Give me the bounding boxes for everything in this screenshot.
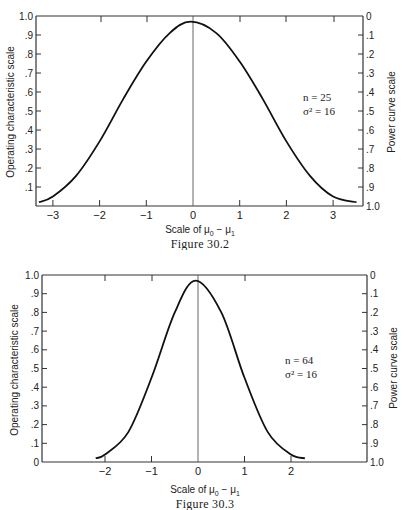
svg-text:−1: −1 <box>140 209 153 221</box>
figure-caption: Figure 30.2 <box>171 237 230 250</box>
svg-text:.6: .6 <box>31 344 40 355</box>
left-axis-label: Operating characteristic scale <box>5 46 16 178</box>
svg-text:.6: .6 <box>366 125 375 136</box>
svg-text:3: 3 <box>330 209 336 221</box>
annotation-sigma: σ² = 16 <box>285 368 317 380</box>
svg-text:.3: .3 <box>31 400 40 411</box>
svg-text:.9: .9 <box>366 182 375 193</box>
svg-text:.4: .4 <box>366 87 375 98</box>
svg-text:.9: .9 <box>31 288 40 299</box>
chart-axes: 1.0.9.8.7.6.5.4.3.2.100.1.2.3.4.5.6.7.8.… <box>25 270 384 478</box>
svg-text:0: 0 <box>190 209 196 221</box>
svg-text:.4: .4 <box>370 344 379 355</box>
svg-text:1: 1 <box>241 465 247 477</box>
svg-text:.2: .2 <box>366 49 375 60</box>
svg-text:.2: .2 <box>370 307 379 318</box>
svg-text:.1: .1 <box>370 288 379 299</box>
x-axis-label: Scale of μ0 − μ1 <box>170 484 240 497</box>
svg-text:−1: −1 <box>145 465 158 477</box>
svg-text:.5: .5 <box>370 363 379 374</box>
svg-text:.8: .8 <box>25 49 34 60</box>
svg-text:1: 1 <box>237 209 243 221</box>
svg-text:.6: .6 <box>370 382 379 393</box>
svg-text:0: 0 <box>366 11 372 22</box>
svg-text:.8: .8 <box>31 307 40 318</box>
svg-text:.3: .3 <box>366 68 375 79</box>
svg-text:1.0: 1.0 <box>25 270 39 281</box>
svg-text:0: 0 <box>195 465 201 477</box>
oc-curve <box>96 281 305 459</box>
svg-text:0: 0 <box>33 457 39 468</box>
svg-text:.1: .1 <box>366 30 375 41</box>
svg-text:.5: .5 <box>366 106 375 117</box>
svg-text:.7: .7 <box>370 400 379 411</box>
annotation-n: n = 25 <box>303 91 332 103</box>
svg-text:.2: .2 <box>25 163 34 174</box>
svg-text:.9: .9 <box>370 438 379 449</box>
svg-text:.3: .3 <box>25 144 34 155</box>
svg-text:2: 2 <box>283 209 289 221</box>
svg-text:.3: .3 <box>370 326 379 337</box>
svg-text:1.0: 1.0 <box>366 201 380 212</box>
svg-text:.4: .4 <box>25 125 34 136</box>
svg-text:2: 2 <box>288 465 294 477</box>
oc-chart-2: 1.0.9.8.7.6.5.4.3.2.100.1.2.3.4.5.6.7.8.… <box>0 258 406 510</box>
annotation-n: n = 64 <box>285 354 314 366</box>
svg-text:.2: .2 <box>31 419 40 430</box>
right-axis-label: Power curve scale <box>388 327 399 409</box>
oc-chart-1: 1.0.9.8.7.6.5.4.3.2.10.1.2.3.4.5.6.7.8.9… <box>0 0 406 250</box>
svg-text:.4: .4 <box>31 382 40 393</box>
svg-text:1.0: 1.0 <box>370 457 384 468</box>
svg-text:.1: .1 <box>31 438 40 449</box>
svg-text:.5: .5 <box>25 106 34 117</box>
svg-text:1.0: 1.0 <box>19 11 33 22</box>
svg-text:.8: .8 <box>366 163 375 174</box>
svg-text:−3: −3 <box>47 209 60 221</box>
svg-text:.6: .6 <box>25 87 34 98</box>
svg-text:.9: .9 <box>25 30 34 41</box>
figure-30-2: 1.0.9.8.7.6.5.4.3.2.10.1.2.3.4.5.6.7.8.9… <box>0 0 406 250</box>
left-axis-label: Operating characteristic scale <box>9 304 20 436</box>
svg-text:.1: .1 <box>25 182 34 193</box>
figure-30-3: 1.0.9.8.7.6.5.4.3.2.100.1.2.3.4.5.6.7.8.… <box>0 258 406 510</box>
x-axis-label: Scale of μ0 − μ1 <box>165 224 235 237</box>
figure-caption: Figure 30.3 <box>176 497 235 510</box>
svg-text:.7: .7 <box>366 144 375 155</box>
right-axis-label: Power curve scale <box>386 71 397 153</box>
annotation-sigma: σ² = 16 <box>303 105 335 117</box>
svg-text:.7: .7 <box>31 326 40 337</box>
svg-text:.8: .8 <box>370 419 379 430</box>
svg-text:−2: −2 <box>99 465 112 477</box>
svg-text:−2: −2 <box>93 209 106 221</box>
svg-text:0: 0 <box>370 270 376 281</box>
svg-text:.7: .7 <box>25 68 34 79</box>
svg-text:.5: .5 <box>31 363 40 374</box>
